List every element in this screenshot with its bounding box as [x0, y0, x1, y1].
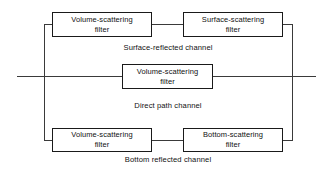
- block-label-line1: Volume-scattering: [71, 130, 132, 140]
- channel-label-surface-reflected: Surface-reflected channel: [81, 43, 255, 52]
- block-label-line2: filter: [226, 140, 241, 150]
- block-bottom-scattering-filter: Bottom-scattering filter: [183, 128, 283, 152]
- block-volume-scattering-filter-surface: Volume-scattering filter: [52, 12, 152, 37]
- channel-label-bottom-reflected: Bottom reflected channel: [92, 155, 244, 164]
- channel-block-diagram: Volume-scattering filter Surface-scatter…: [0, 0, 326, 170]
- block-volume-scattering-filter-bottom: Volume-scattering filter: [52, 128, 152, 152]
- channel-label-direct-path: Direct path channel: [103, 101, 233, 110]
- block-label-line2: filter: [160, 77, 175, 87]
- block-label-line1: Bottom-scattering: [203, 130, 263, 140]
- block-label-line1: Volume-scattering: [71, 15, 132, 25]
- block-label-line1: Volume-scattering: [137, 67, 198, 77]
- block-label-line2: filter: [95, 25, 110, 35]
- block-volume-scattering-filter-direct: Volume-scattering filter: [122, 64, 213, 89]
- block-label-line1: Surface-scattering: [202, 15, 264, 25]
- block-surface-scattering-filter: Surface-scattering filter: [183, 12, 283, 37]
- block-label-line2: filter: [226, 25, 241, 35]
- block-label-line2: filter: [95, 140, 110, 150]
